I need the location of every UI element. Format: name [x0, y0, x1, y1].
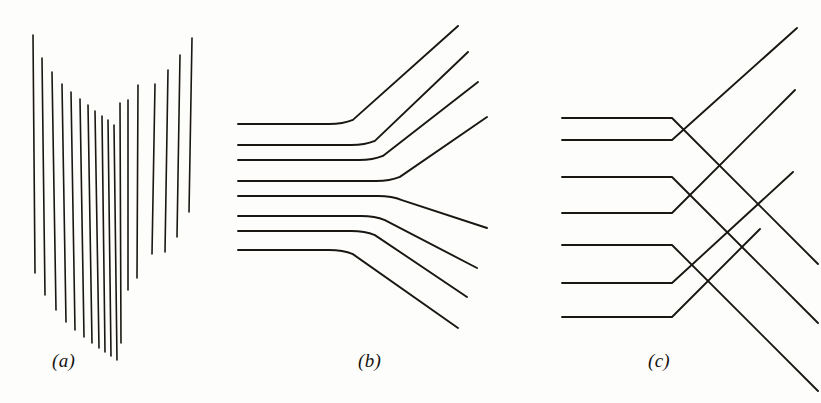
panel-a-lines — [33, 35, 192, 360]
panel-b-ray-5 — [238, 196, 487, 228]
panel-a-segment-15 — [152, 84, 155, 254]
panel-a-segment-17 — [177, 55, 180, 237]
panel-a-segment-1 — [33, 35, 35, 273]
panel-b-ray-2 — [238, 52, 468, 145]
panel-label-b: (b) — [358, 350, 381, 372]
panel-a-segment-7 — [88, 105, 92, 343]
figure-canvas — [0, 0, 821, 403]
panel-a-segment-8 — [95, 111, 99, 348]
panel-b-ray-1 — [238, 26, 458, 124]
panel-a-segment-16 — [165, 70, 168, 252]
panel-c-ray-6 — [562, 172, 793, 283]
panel-b-ray-4 — [238, 117, 487, 181]
panel-b-ray-6 — [238, 216, 477, 268]
panel-c-ray-3 — [562, 177, 818, 323]
panel-label-a: (a) — [52, 350, 75, 372]
figure-container: (a) (b) (c) — [0, 0, 821, 403]
panel-a-segment-4 — [62, 84, 66, 322]
panel-label-c: (c) — [648, 350, 670, 372]
panel-a-segment-10 — [108, 120, 111, 356]
panel-a-segment-18 — [189, 38, 192, 212]
panel-b-ray-7 — [238, 231, 467, 297]
panel-a-segment-3 — [52, 72, 56, 310]
panel-a-segment-9 — [102, 116, 105, 352]
panel-a-segment-5 — [71, 92, 75, 330]
panel-a-segment-14 — [137, 85, 138, 278]
panel-a-segment-11 — [114, 125, 117, 360]
panel-a-segment-2 — [42, 58, 45, 295]
panel-b-ray-8 — [238, 250, 458, 328]
panel-b-rays — [238, 26, 487, 328]
panel-a-segment-6 — [80, 99, 84, 337]
panel-c-ray-4 — [562, 90, 795, 213]
panel-c-rays — [562, 28, 818, 391]
panel-a-segment-12 — [120, 103, 121, 343]
